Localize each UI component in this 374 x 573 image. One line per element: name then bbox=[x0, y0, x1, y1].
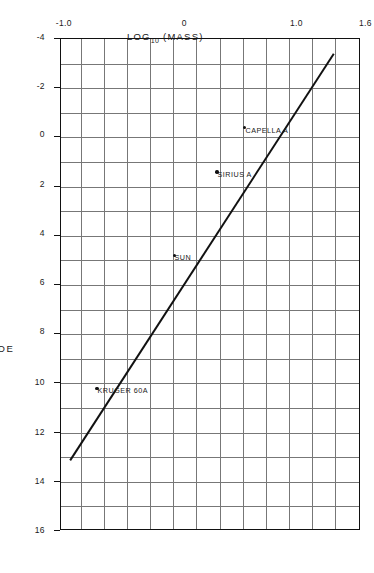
data-point-label: SIRIUS A bbox=[218, 169, 252, 178]
data-series-line bbox=[61, 39, 359, 529]
chart-figure: CAPELLA ASIRIUS ASUNKRUGER 60A -4-202468… bbox=[0, 0, 374, 573]
y-axis-title-main: LOG bbox=[127, 31, 151, 42]
data-point-label: SUN bbox=[175, 253, 192, 262]
x-axis-tick-label: 12 bbox=[35, 427, 45, 437]
x-axis-tick bbox=[54, 136, 60, 137]
x-axis-tick bbox=[54, 333, 60, 334]
x-axis-tick-label: 2 bbox=[40, 178, 45, 188]
x-axis-tick bbox=[54, 38, 60, 39]
x-axis-tick bbox=[54, 481, 60, 482]
y-axis-title: LOG10 (MASS) bbox=[127, 31, 204, 44]
x-axis-tick-label: 6 bbox=[40, 277, 45, 287]
y-axis-tick-label: -1.0 bbox=[50, 18, 72, 28]
x-axis-tick bbox=[54, 87, 60, 88]
x-axis-tick-label: 8 bbox=[40, 326, 45, 336]
y-axis-tick-label: 1.6 bbox=[350, 18, 372, 28]
y-axis-tick-label: 1.0 bbox=[281, 18, 303, 28]
x-axis-tick-label: -2 bbox=[37, 81, 45, 91]
x-axis-tick bbox=[54, 235, 60, 236]
x-axis-tick-label: 0 bbox=[40, 129, 45, 139]
y-axis-title-subscript: 10 bbox=[151, 37, 160, 44]
x-axis-tick bbox=[54, 284, 60, 285]
x-axis-tick-label: -4 bbox=[37, 32, 45, 42]
x-axis-tick bbox=[54, 432, 60, 433]
x-axis-tick-label: 16 bbox=[35, 525, 45, 535]
x-axis-tick bbox=[54, 186, 60, 187]
x-axis-tick-label: 10 bbox=[35, 378, 45, 388]
plot-area: CAPELLA ASIRIUS ASUNKRUGER 60A bbox=[60, 38, 360, 530]
y-axis-tick-label: 0 bbox=[165, 18, 187, 28]
x-axis-tick bbox=[54, 530, 60, 531]
x-axis-tick-label: 4 bbox=[40, 227, 45, 237]
y-axis-title-tail: (MASS) bbox=[159, 31, 203, 42]
x-axis-title: ABSOLUTE MAGNITUDE bbox=[0, 343, 15, 354]
series-line-mass-luminosity-relation bbox=[70, 54, 334, 461]
data-point-label: CAPELLA A bbox=[245, 125, 288, 134]
data-point-label: KRUGER 60A bbox=[98, 386, 149, 395]
rotated-figure-stage: CAPELLA ASIRIUS ASUNKRUGER 60A -4-202468… bbox=[0, 0, 374, 573]
x-axis-tick-label: 14 bbox=[35, 476, 45, 486]
x-axis-tick bbox=[54, 382, 60, 383]
